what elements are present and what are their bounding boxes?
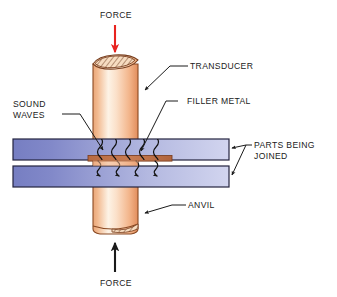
- label-force-bottom: FORCE: [100, 278, 132, 289]
- leader-parts-upper: [232, 145, 246, 148]
- label-parts-joined-line1: PARTS BEING: [254, 140, 315, 151]
- label-sound-waves-line1: SOUND: [13, 99, 46, 110]
- label-filler-metal: FILLER METAL: [187, 96, 251, 107]
- ultrasonic-welding-diagram: FORCE FORCE TRANSDUCER FILLER METAL SOUN…: [0, 0, 337, 297]
- leader-transducer: [145, 66, 170, 90]
- label-force-top: FORCE: [100, 10, 132, 21]
- leader-parts-lower: [232, 145, 246, 175]
- leader-anvil: [145, 205, 172, 213]
- lower-plate: [13, 166, 229, 187]
- label-transducer: TRANSDUCER: [190, 61, 253, 72]
- label-sound-waves-line2: WAVES: [13, 110, 45, 121]
- label-anvil: ANVIL: [188, 200, 215, 211]
- label-parts-joined-line2: JOINED: [254, 151, 288, 162]
- cylinder-gap-segment: [93, 161, 138, 167]
